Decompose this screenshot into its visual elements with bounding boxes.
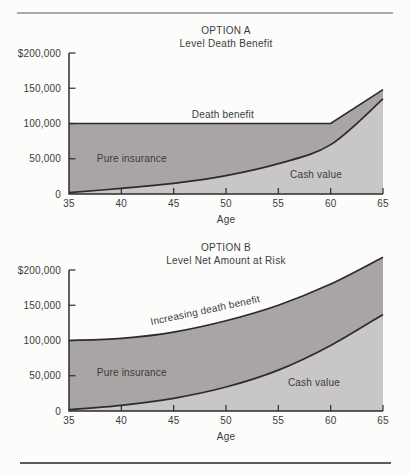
insurance-options-figure: OPTION A Level Death Benefit $200,000150… (0, 0, 410, 474)
y-tick-label: 50,000 (29, 153, 61, 164)
y-tick-label: 0 (55, 406, 61, 417)
x-tick-label: 45 (168, 415, 180, 426)
y-tick-label: $200,000 (18, 265, 62, 276)
x-tick-label: 60 (325, 415, 337, 426)
x-tick-label: 50 (220, 415, 232, 426)
bottom-divider (20, 462, 391, 464)
area-label: Cash value (290, 169, 342, 180)
x-tick-label: 40 (116, 198, 128, 209)
y-tick-label: 150,000 (23, 83, 61, 94)
y-tick-label: 50,000 (29, 370, 61, 381)
x-tick-label: 35 (63, 198, 75, 209)
chart-option-b: OPTION B Level Net Amount at Risk $200,0… (0, 235, 410, 449)
y-tick-label: 0 (55, 189, 61, 200)
x-tick-label: 45 (168, 198, 180, 209)
option-b-plot: $200,000150,000100,00050,000035404550556… (0, 235, 410, 449)
area-label: Pure insurance (97, 367, 167, 378)
y-tick-label: 150,000 (23, 300, 61, 311)
x-tick-label: 55 (273, 415, 285, 426)
y-tick-label: 100,000 (23, 118, 61, 129)
y-tick-label: 100,000 (23, 335, 61, 346)
x-tick-label: 35 (63, 415, 75, 426)
area-label: Pure insurance (97, 153, 167, 164)
chart-option-a: OPTION A Level Death Benefit $200,000150… (0, 18, 410, 232)
x-tick-label: 60 (325, 198, 337, 209)
top-divider (17, 12, 393, 14)
option-a-plot: $200,000150,000100,00050,000035404550556… (0, 18, 410, 232)
area-label: Death benefit (192, 109, 254, 120)
x-axis-title: Age (217, 431, 236, 442)
y-tick-label: $200,000 (18, 48, 62, 59)
x-tick-label: 65 (377, 415, 389, 426)
x-axis-title: Age (217, 214, 236, 225)
area-label: Cash value (288, 377, 340, 388)
x-tick-label: 55 (273, 198, 285, 209)
x-tick-label: 65 (377, 198, 389, 209)
x-tick-label: 40 (116, 415, 128, 426)
x-tick-label: 50 (220, 198, 232, 209)
